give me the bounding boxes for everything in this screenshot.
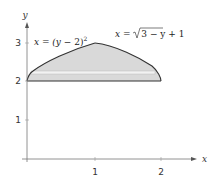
y-tick-label-3: 3: [15, 38, 21, 48]
x-axis-label: x: [202, 154, 207, 164]
x-axis-arrow-icon: [191, 157, 197, 161]
y-tick-label-2: 2: [15, 76, 21, 86]
x-tick-label-1: 1: [92, 167, 98, 177]
region-plot: 1 2 1 2 3 x y x = (y − 2)2 x = 3 − y + 1: [0, 0, 220, 188]
equation-right-label: x = 3 − y + 1: [115, 29, 184, 39]
y-axis-label: y: [21, 10, 28, 20]
horizontal-strip: [31, 71, 155, 74]
y-axis-arrow-icon: [25, 22, 29, 28]
x-tick-label-2: 2: [158, 167, 164, 177]
equation-left-label: x = (y − 2)2: [34, 35, 87, 47]
y-tick-label-1: 1: [15, 115, 21, 125]
